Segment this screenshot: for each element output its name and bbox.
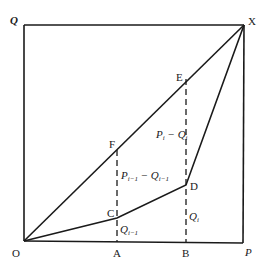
label-pi1-minus-qi1: Pi−1 − Qi−1 xyxy=(120,169,169,183)
label-b: B xyxy=(182,247,189,259)
label-a: A xyxy=(113,247,121,259)
label-f: F xyxy=(109,138,115,150)
label-e: E xyxy=(176,71,183,83)
label-q-corner: Q xyxy=(10,14,18,26)
label-c: C xyxy=(107,207,114,219)
bottom-edge xyxy=(24,241,243,243)
label-qi1: Qi−1 xyxy=(120,223,138,237)
label-p-corner: P xyxy=(244,246,252,258)
label-d: D xyxy=(190,180,198,192)
label-x: X xyxy=(248,15,256,27)
right-edge xyxy=(243,25,244,243)
label-pi-minus-qi: Pi − Qi xyxy=(155,128,188,142)
lorenz-box-diagram: Q X O P E F C D A B Pi − Qi Pi−1 − Qi−1 … xyxy=(0,0,268,274)
label-qi: Qi xyxy=(189,210,199,224)
label-o: O xyxy=(12,247,20,259)
diagonal-line xyxy=(24,25,244,241)
